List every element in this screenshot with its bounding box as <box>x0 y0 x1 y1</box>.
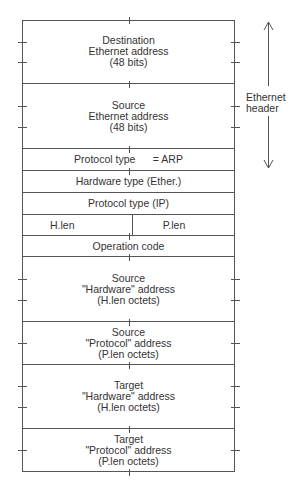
tick-mark <box>231 300 240 301</box>
tick-mark <box>129 233 130 240</box>
tick-mark <box>231 407 240 408</box>
field-label: (P.len octets) <box>98 456 159 467</box>
field-label: H.len <box>50 220 75 231</box>
tick-mark <box>18 407 27 408</box>
tick-mark <box>129 254 130 261</box>
field-src-proto: Source "Protocol" address (P.len octets) <box>22 322 235 365</box>
tick-mark <box>18 106 27 107</box>
field-label: (48 bits) <box>110 57 148 68</box>
field-label: Source <box>112 273 145 284</box>
tick-mark <box>129 146 130 153</box>
field-label: Protocol type = ARP <box>74 154 183 165</box>
tick-mark <box>231 343 240 344</box>
tick-mark <box>18 127 27 128</box>
field-proto-type-ip: Protocol type (IP) <box>22 193 235 215</box>
field-label: (H.len octets) <box>97 402 159 413</box>
tick-mark <box>129 168 130 175</box>
tick-mark <box>18 62 27 63</box>
field-hlen: H.len <box>22 215 133 235</box>
field-label: Operation code <box>93 241 165 252</box>
label-line: header <box>246 103 286 114</box>
field-label: "Protocol" address <box>85 338 171 349</box>
tick-mark <box>18 386 27 387</box>
tick-mark <box>18 279 27 280</box>
tick-mark <box>129 81 130 88</box>
field-dest-ether: Destination Ethernet address (48 bits) <box>22 20 235 84</box>
tick-mark <box>129 17 130 24</box>
tick-mark <box>129 426 130 433</box>
tick-mark <box>231 62 240 63</box>
tick-mark <box>129 362 130 369</box>
field-label: Hardware type (Ether.) <box>76 176 182 187</box>
field-src-hw: Source "Hardware" address (H.len octets) <box>22 257 235 322</box>
field-label: Protocol type (IP) <box>88 198 169 209</box>
ethernet-header-label: Ethernet header <box>246 92 286 114</box>
tick-mark <box>129 319 130 326</box>
field-label: P.len <box>163 220 186 231</box>
tick-mark <box>129 469 130 476</box>
field-label: (48 bits) <box>110 122 148 133</box>
tick-mark <box>231 42 240 43</box>
tick-mark <box>18 300 27 301</box>
field-plen: P.len <box>133 215 235 235</box>
field-label: Ethernet address <box>89 111 169 122</box>
tick-mark <box>18 42 27 43</box>
bracket-line-top <box>268 28 269 86</box>
field-src-ether: Source Ethernet address (48 bits) <box>22 84 235 149</box>
field-tgt-hw: Target "Hardware" address (H.len octets) <box>22 365 235 429</box>
field-label: Source <box>112 100 145 111</box>
field-label: (P.len octets) <box>98 349 159 360</box>
tick-mark <box>231 386 240 387</box>
tick-mark <box>231 127 240 128</box>
field-label: Source <box>112 327 145 338</box>
tick-mark <box>231 450 240 451</box>
tick-mark <box>231 106 240 107</box>
field-label: (H.len octets) <box>97 295 159 306</box>
field-label: "Hardware" address <box>82 284 175 295</box>
tick-mark <box>231 279 240 280</box>
arrow-down-icon <box>262 156 275 168</box>
tick-mark <box>18 343 27 344</box>
tick-mark <box>18 450 27 451</box>
field-tgt-proto: Target "Protocol" address (P.len octets) <box>22 429 235 472</box>
